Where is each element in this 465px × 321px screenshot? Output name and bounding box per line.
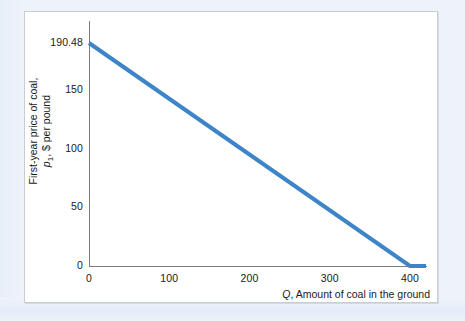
y-tick-label: 50 xyxy=(71,200,83,212)
figure-root: 190.48 150 100 50 0 0 100 200 300 400 Fi… xyxy=(0,0,465,321)
y-tick-label: 100 xyxy=(65,142,83,154)
y-axis-subscript: 1 xyxy=(46,157,55,161)
demand-line-series xyxy=(25,12,439,304)
y-axis-title: First-year price of coal, p1, $ per poun… xyxy=(27,36,57,226)
x-axis-title: Q, Amount of coal in the ground xyxy=(89,288,434,300)
x-tick-label: 100 xyxy=(160,272,178,284)
y-axis-units: , $ per pound xyxy=(40,95,52,157)
chart-plate: 190.48 150 100 50 0 0 100 200 300 400 Fi… xyxy=(24,11,438,303)
x-tick-label: 200 xyxy=(241,272,259,284)
y-tick-label: 150 xyxy=(65,83,83,95)
x-tick-label: 300 xyxy=(321,272,339,284)
y-axis-title-line2: p1, $ per pound xyxy=(40,36,57,226)
x-tick-label: 400 xyxy=(401,272,419,284)
x-tick-label: 0 xyxy=(86,272,92,284)
plot-area: 190.48 150 100 50 0 0 100 200 300 400 Fi… xyxy=(25,12,439,304)
x-axis-title-text: , Amount of coal in the ground xyxy=(290,288,430,300)
y-axis-title-line1: First-year price of coal, xyxy=(27,36,40,226)
page-tint-left xyxy=(0,0,22,321)
y-tick-label: 0 xyxy=(77,259,83,271)
y-axis-symbol: p xyxy=(40,161,52,167)
demand-line-path xyxy=(89,43,426,266)
